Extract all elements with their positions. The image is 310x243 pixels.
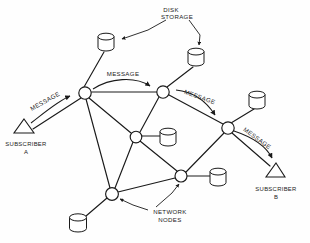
link-n3-n6: [115, 142, 133, 188]
link-n1-disk-top-left: [84, 52, 104, 87]
subscriber-a-label-line2: A: [24, 149, 28, 155]
text-labels: DISK STORAGE MESSAGE MESSAGE MESSAGE MES…: [5, 6, 296, 223]
network-node-right: [222, 122, 234, 134]
message-label-right-lower: MESSAGE: [242, 126, 272, 151]
network-nodes-label-line1: NETWORK: [153, 208, 187, 215]
network-node-upper-left: [79, 87, 91, 99]
leader-network-nodes-right: [156, 184, 179, 207]
disk-storage-label-line1: DISK: [163, 6, 179, 13]
leader-disk-storage-right: [189, 20, 200, 45]
leader-disk-storage-left: [122, 20, 166, 39]
network-node-center: [130, 131, 142, 143]
disk-storage-top-right: [188, 48, 204, 66]
message-label-center: MESSAGE: [107, 70, 140, 77]
network-node-lower-left: [106, 188, 119, 201]
link-n2-n3: [140, 97, 159, 132]
disk-storage-center: [160, 128, 176, 146]
disk-storage-bottom-left: [70, 214, 87, 232]
disk-storage-upper-right: [249, 91, 265, 109]
network-links: [86, 92, 224, 192]
network-node-upper-right: [157, 86, 169, 98]
network-nodes-label-line2: NODES: [158, 216, 181, 223]
message-label-right-upper: MESSAGE: [183, 88, 216, 106]
disk-storage-group: [70, 33, 266, 232]
subscriber-b-label-line1: SUBSCRIBER: [255, 186, 296, 192]
subscriber-b-label-line2: B: [274, 194, 278, 200]
leader-network-nodes-left: [120, 199, 148, 210]
message-label-left: MESSAGE: [29, 90, 61, 112]
link-n4-disk-upper-right: [231, 109, 254, 123]
disk-storage-label-line2: STORAGE: [161, 13, 193, 20]
message-arrow-center: [93, 80, 150, 89]
subscriber-a-label-line1: SUBSCRIBER: [5, 141, 46, 147]
network-node-lower-right: [175, 170, 187, 182]
network-diagram: DISK STORAGE MESSAGE MESSAGE MESSAGE MES…: [0, 0, 310, 243]
diagram-canvas: DISK STORAGE MESSAGE MESSAGE MESSAGE MES…: [0, 0, 310, 243]
link-n1-n3: [89, 98, 131, 133]
subscriber-a-terminal: [14, 119, 34, 133]
disk-storage-lower-right: [210, 168, 226, 186]
link-n2-disk-top-right: [167, 67, 193, 87]
subscriber-links: [33, 98, 270, 166]
link-n4-n5: [186, 133, 224, 172]
link-n5-n6: [118, 178, 175, 192]
disk-storage-top-left: [98, 33, 114, 51]
link-n6-disk-bottom-left: [86, 198, 107, 216]
message-arrows: [31, 80, 272, 158]
